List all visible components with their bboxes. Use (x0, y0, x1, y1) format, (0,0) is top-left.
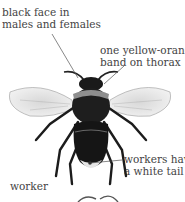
abdomen (74, 121, 109, 167)
wing-left (9, 88, 74, 117)
tail-pointer-dot (88, 161, 92, 165)
bumblebee-illustration (0, 0, 185, 202)
wing-right (108, 88, 171, 117)
second-bee-partial (78, 196, 118, 202)
